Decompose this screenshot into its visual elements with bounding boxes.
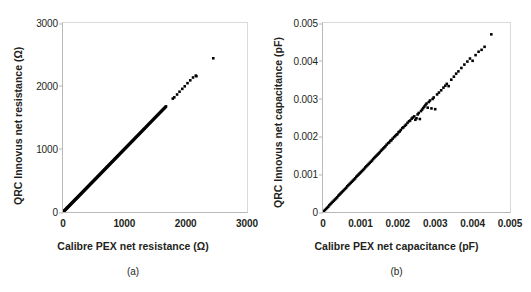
y-axis-title-b: QRC Innovus net capacitance (pF) <box>272 37 284 208</box>
x-tick-a-0: 0 <box>60 212 65 229</box>
y-tick-a-0: 3000 <box>36 18 63 29</box>
y-tick-b-0: 0.005 <box>293 18 323 29</box>
scatter-plot-b <box>323 23 510 212</box>
y-tick-b-1: 0.004 <box>293 55 323 66</box>
x-tick-a-3: 3000 <box>236 212 258 229</box>
y-tick-b-4: 0.001 <box>293 169 323 180</box>
figure-container: 3000 2000 1000 0 0 1000 2000 3000 QRC In… <box>0 0 531 292</box>
x-tick-b-4: 0.004 <box>460 212 485 229</box>
x-tick-a-1: 1000 <box>113 212 135 229</box>
panel-b: 0.005 0.004 0.003 0.002 0.001 0 0 0.001 … <box>262 0 531 292</box>
plot-area-a: 3000 2000 1000 0 0 1000 2000 3000 <box>62 22 248 213</box>
x-tick-b-2: 0.002 <box>386 212 411 229</box>
y-tick-a-2: 1000 <box>36 143 63 154</box>
y-axis-title-a: QRC Innovus net resistance (Ω) <box>12 47 24 205</box>
x-tick-b-0: 0 <box>320 212 325 229</box>
subfigure-caption-a: (a) <box>0 266 266 277</box>
scatter-plot-a <box>63 23 247 212</box>
y-tick-b-3: 0.002 <box>293 131 323 142</box>
y-tick-b-2: 0.003 <box>293 93 323 104</box>
subfigure-caption-b: (b) <box>262 266 531 277</box>
x-tick-a-2: 2000 <box>175 212 197 229</box>
y-tick-a-1: 2000 <box>36 80 63 91</box>
plot-area-b: 0.005 0.004 0.003 0.002 0.001 0 0 0.001 … <box>322 22 511 213</box>
x-tick-b-1: 0.001 <box>348 212 373 229</box>
x-axis-title-a: Calibre PEX net resistance (Ω) <box>0 240 266 252</box>
x-axis-title-b: Calibre PEX net capacitance (pF) <box>262 240 531 252</box>
x-tick-b-5: 0.005 <box>498 212 523 229</box>
panel-a: 3000 2000 1000 0 0 1000 2000 3000 QRC In… <box>0 0 266 292</box>
x-tick-b-3: 0.003 <box>423 212 448 229</box>
